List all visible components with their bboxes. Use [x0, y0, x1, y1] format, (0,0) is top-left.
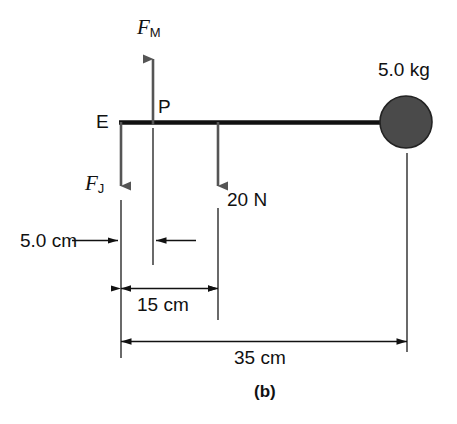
- force-fj-label: FJ: [85, 173, 104, 194]
- mass-circle: [380, 96, 432, 148]
- mass-label: 5.0 kg: [378, 60, 430, 79]
- point-e-label: E: [96, 112, 109, 131]
- force-fm-label: FM: [137, 17, 161, 38]
- dimension-label-5cm: 5.0 cm: [20, 231, 77, 250]
- physics-figure: FM E P FJ 20 N 5.0 kg 5.0 cm 15 cm 35 cm…: [0, 0, 457, 424]
- dimension-label-35cm: 35 cm: [234, 348, 286, 367]
- dimension-label-15cm: 15 cm: [137, 295, 189, 314]
- load-20n-label: 20 N: [227, 190, 267, 209]
- point-p-label: P: [158, 97, 171, 116]
- figure-caption: (b): [254, 383, 276, 400]
